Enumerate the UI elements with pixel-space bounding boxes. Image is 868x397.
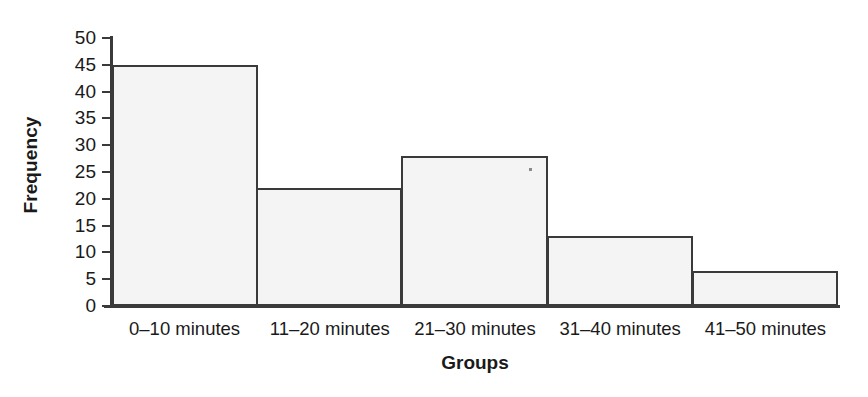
- y-axis-tick: [102, 278, 112, 280]
- y-axis-tick: [102, 117, 112, 119]
- y-axis-tick-label-text: 15: [54, 216, 96, 235]
- y-axis-tick: [102, 198, 112, 200]
- y-axis-tick-label: 40: [50, 82, 96, 101]
- y-axis-tick-label-text: 25: [54, 162, 96, 181]
- y-axis-tick: [102, 225, 112, 227]
- y-axis-tick-label: 25: [50, 162, 96, 181]
- y-axis-tick-label: 5: [50, 269, 96, 288]
- histogram-bar: [256, 188, 402, 306]
- x-axis-title: Groups: [112, 352, 838, 374]
- y-axis-title: Frequency: [10, 0, 50, 330]
- y-axis-tick-label: 45: [50, 55, 96, 74]
- histogram-chart: Frequency 50454035302520151050 0–10 minu…: [0, 0, 868, 397]
- x-axis-tick-label: 31–40 minutes: [548, 318, 693, 340]
- y-axis-tick-label: 50: [50, 28, 96, 47]
- x-axis-tick-label: 0–10 minutes: [112, 318, 257, 340]
- histogram-bar: [401, 156, 547, 306]
- y-axis-tick-label: 15: [50, 216, 96, 235]
- y-axis-tick-label: 20: [50, 189, 96, 208]
- histogram-bar: [547, 236, 693, 306]
- y-axis-tick: [102, 305, 112, 307]
- y-axis-tick: [102, 64, 112, 66]
- x-axis-tick-label: 41–50 minutes: [693, 318, 838, 340]
- y-axis-tick: [102, 171, 112, 173]
- y-axis-tick-label-text: 20: [54, 189, 96, 208]
- histogram-bar: [692, 271, 838, 306]
- y-axis-tick-label-text: 5: [54, 269, 96, 288]
- x-axis-tick-label: 21–30 minutes: [402, 318, 547, 340]
- y-axis-tick: [102, 144, 112, 146]
- histogram-bar: [112, 65, 258, 306]
- plot-area: [112, 38, 838, 306]
- y-axis-tick-label-text: 35: [54, 108, 96, 127]
- y-axis-tick-label-text: 30: [54, 135, 96, 154]
- y-axis-tick: [102, 251, 112, 253]
- y-axis-tick-label: 10: [50, 242, 96, 261]
- y-axis-tick-label: 30: [50, 135, 96, 154]
- y-axis-tick-label-text: 45: [54, 55, 96, 74]
- y-axis-title-label: Frequency: [19, 117, 41, 214]
- scan-artifact-speck: [529, 168, 532, 171]
- y-axis-tick: [102, 91, 112, 93]
- y-axis-tick-label-text: 50: [54, 28, 96, 47]
- y-axis-tick: [102, 37, 112, 39]
- y-axis-tick-label: 35: [50, 108, 96, 127]
- y-axis-tick-label: 0: [50, 296, 96, 315]
- y-axis-tick-label-text: 40: [54, 82, 96, 101]
- y-axis-tick-label-text: 10: [54, 242, 96, 261]
- y-axis-tick-label-text: 0: [54, 296, 96, 315]
- x-axis-tick-label: 11–20 minutes: [257, 318, 402, 340]
